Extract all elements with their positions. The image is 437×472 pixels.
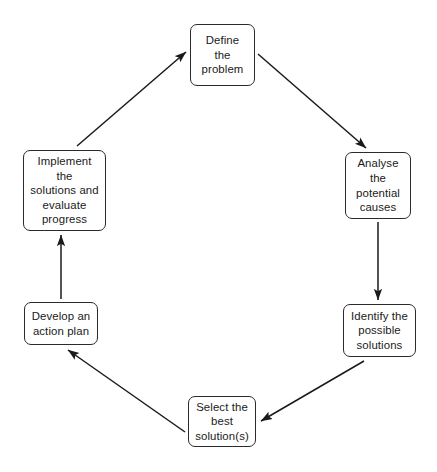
node-analyse-the-potential-causes-label: Analyse the potential causes <box>352 156 404 214</box>
node-develop-an-action-plan-label: Develop an action plan <box>28 309 95 338</box>
node-implement-the-solutions-and-evaluate-progress[interactable]: Implement the solutions and evaluate pro… <box>23 150 106 231</box>
node-analyse-the-potential-causes[interactable]: Analyse the potential causes <box>345 152 411 219</box>
arrow-implement-to-define <box>77 52 186 146</box>
arrow-select-to-develop <box>68 350 185 432</box>
node-implement-the-solutions-and-evaluate-progress-label: Implement the solutions and evaluate pro… <box>26 154 102 227</box>
arrow-identify-to-select <box>261 361 364 421</box>
node-identify-the-possible-solutions[interactable]: Identify the possible solutions <box>343 304 416 357</box>
node-select-the-best-solutions[interactable]: Select the best solution(s) <box>188 396 256 447</box>
node-develop-an-action-plan[interactable]: Develop an action plan <box>24 302 98 345</box>
node-select-the-best-solutions-label: Select the best solution(s) <box>191 400 253 444</box>
node-define-the-problem[interactable]: Define the problem <box>190 24 255 86</box>
problem-solving-cycle-diagram: Define the problem Analyse the potential… <box>0 0 437 472</box>
node-identify-the-possible-solutions-label: Identify the possible solutions <box>347 309 412 353</box>
node-define-the-problem-label: Define the problem <box>198 33 248 77</box>
arrow-define-to-analyse <box>258 54 366 148</box>
